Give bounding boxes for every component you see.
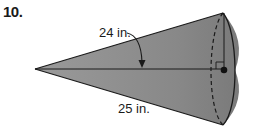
upper-measure-label: 24 in. xyxy=(99,25,131,40)
problem-figure: 10. 24 in. 25 in. xyxy=(0,0,258,136)
base-center-dot xyxy=(221,67,228,74)
lower-measure-label: 25 in. xyxy=(118,101,150,116)
